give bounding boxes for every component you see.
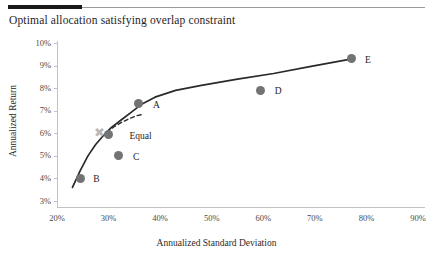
data-point-label-d: D [275, 86, 282, 96]
data-point-label-equal: Equal [130, 131, 152, 141]
chart-figure: Optimal allocation satisfying overlap co… [0, 0, 433, 257]
data-point-marker [104, 130, 113, 139]
data-point-marker [76, 174, 85, 183]
x-axis-title: Annualized Standard Deviation [0, 238, 433, 248]
y-axis-title: Annualized Return [8, 56, 18, 186]
data-point-label-a: A [153, 100, 160, 110]
data-point-label-c: C [133, 152, 139, 162]
data-point-label-b: B [93, 174, 99, 184]
frontier-curves [0, 0, 433, 257]
data-point-label-e: E [365, 55, 371, 65]
series-efficient-frontier [72, 59, 352, 188]
